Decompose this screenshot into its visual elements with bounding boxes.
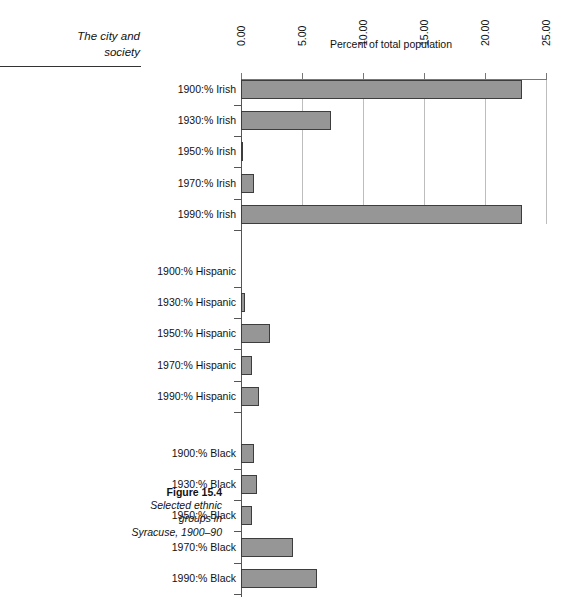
x-tick-label: 5.00 (297, 26, 307, 46)
bar (241, 569, 317, 588)
x-axis-tick (485, 73, 486, 79)
y-axis-tick (234, 318, 241, 319)
category-label: 1900:% Black (86, 444, 236, 463)
category-label: 1990:% Irish (86, 205, 236, 224)
gridline (485, 80, 486, 224)
y-axis-tick (234, 230, 241, 231)
y-axis-tick (234, 287, 241, 288)
bar (241, 205, 522, 224)
category-label: 1950:% Hispanic (86, 324, 236, 343)
category-label: 1930:% Hispanic (86, 293, 236, 312)
category-label: 1900:% Irish (86, 80, 236, 99)
bar (241, 387, 259, 406)
figure-caption: Figure 15.4 Selected ethnic groups in Sy… (30, 486, 222, 539)
x-axis-tick (546, 73, 547, 79)
category-label: 1990:% Hispanic (86, 387, 236, 406)
figure-caption-line2: Selected ethnic (30, 499, 222, 512)
gridline (546, 80, 547, 224)
figure-caption-line3: groups in (30, 512, 222, 525)
bar (241, 538, 293, 557)
category-label: 1930:% Irish (86, 111, 236, 130)
gridline (302, 80, 303, 224)
y-axis-tick (234, 531, 241, 532)
x-axis-tick (302, 73, 303, 79)
bar (241, 174, 254, 193)
x-tick-label: 10.00 (358, 20, 368, 46)
bar (241, 506, 252, 525)
y-axis-tick (234, 199, 241, 200)
y-axis-tick (234, 594, 241, 595)
x-tick-label: 0.00 (236, 26, 246, 46)
bar (241, 293, 245, 312)
bar (241, 356, 252, 375)
gridline (363, 80, 364, 224)
figure-caption-line4: Syracuse, 1900–90 (30, 526, 222, 539)
bar (241, 444, 254, 463)
bar (241, 324, 270, 343)
x-tick-label: 20.00 (480, 20, 490, 46)
gridline (424, 80, 425, 224)
bar (241, 80, 522, 99)
bar (241, 111, 331, 130)
y-axis-tick (234, 412, 241, 413)
x-tick-label: 15.00 (419, 20, 429, 46)
x-axis-tick (363, 73, 364, 79)
category-label: 1970:% Irish (86, 174, 236, 193)
x-tick-label: 25.00 (541, 20, 551, 46)
category-label: 1900:% Hispanic (86, 262, 236, 281)
y-axis-tick (234, 349, 241, 350)
y-axis-tick (234, 563, 241, 564)
figure-number: Figure 15.4 (30, 486, 222, 499)
y-axis-tick (234, 381, 241, 382)
y-axis-tick (234, 105, 241, 106)
x-axis-tick (424, 73, 425, 79)
chart-axis-title: Percent of total population (330, 38, 452, 50)
bar (241, 475, 257, 494)
y-axis-tick (234, 136, 241, 137)
x-axis-tick (241, 73, 242, 79)
category-label: 1970:% Hispanic (86, 356, 236, 375)
y-axis-tick (234, 167, 241, 168)
bar (241, 142, 243, 161)
category-label: 1990:% Black (86, 569, 236, 588)
y-axis-tick (234, 469, 241, 470)
y-axis-tick (234, 500, 241, 501)
category-label: 1950:% Irish (86, 142, 236, 161)
category-label: 1970:% Black (86, 538, 236, 557)
